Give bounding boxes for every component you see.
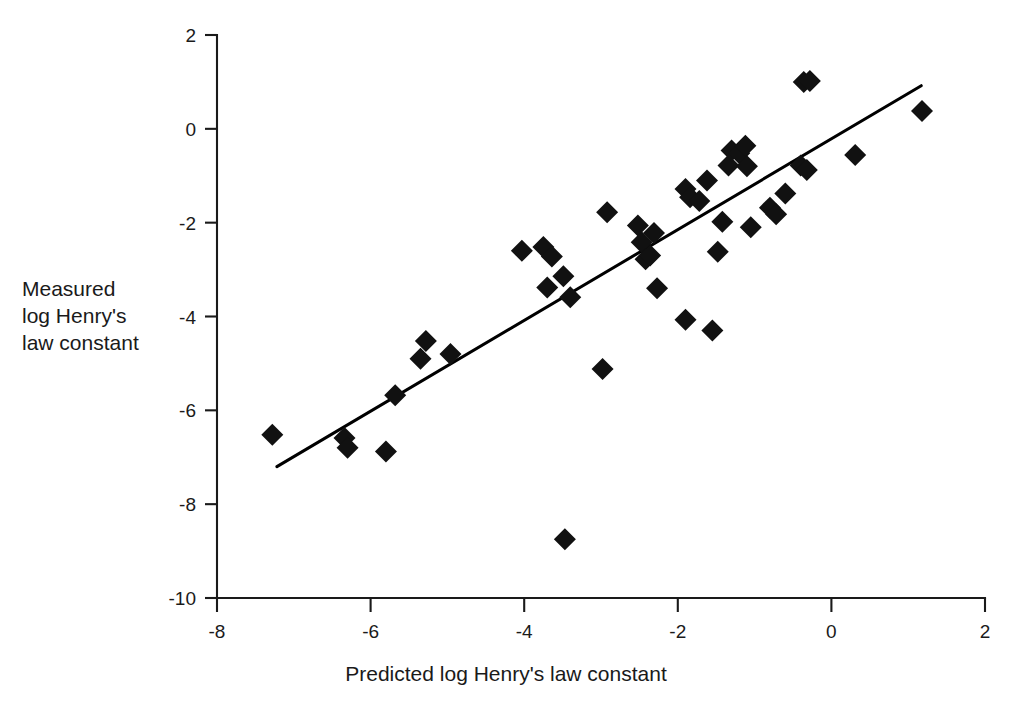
- regression-line: [277, 86, 921, 467]
- y-tick-label: -8: [179, 494, 196, 515]
- axes: [217, 35, 985, 598]
- y-tick-label: -10: [169, 588, 196, 609]
- scatter-point: [384, 384, 406, 406]
- plot-canvas: 20-2-4-6-8-10 -8-6-4-202: [0, 0, 1012, 717]
- x-tick-label: -4: [516, 621, 533, 642]
- scatter-point: [674, 309, 696, 331]
- y-tick-label: -2: [179, 213, 196, 234]
- y-tick-label: -6: [179, 400, 196, 421]
- scatter-point: [844, 144, 866, 166]
- scatter-point: [592, 358, 614, 380]
- scatter-point: [646, 277, 668, 299]
- x-tick-label: -8: [209, 621, 226, 642]
- scatter-point: [554, 528, 576, 550]
- y-tick-label: 2: [185, 25, 196, 46]
- scatter-point: [911, 100, 933, 122]
- x-tick-label: -6: [362, 621, 379, 642]
- scatter-point: [740, 216, 762, 238]
- scatter-point: [410, 348, 432, 370]
- scatter-point: [375, 441, 397, 463]
- x-tick-label: 0: [826, 621, 837, 642]
- x-tick-label: -2: [669, 621, 686, 642]
- scatter-point: [711, 211, 733, 233]
- scatter-point: [707, 241, 729, 263]
- scatter-point: [552, 265, 574, 287]
- y-axis-title: Measured log Henry's law constant: [22, 275, 192, 356]
- scatter-point: [439, 343, 461, 365]
- y-tick-label: 0: [185, 119, 196, 140]
- data-points: [261, 70, 933, 550]
- scatter-point: [596, 201, 618, 223]
- scatter-point: [511, 240, 533, 262]
- scatter-point: [701, 320, 723, 342]
- scatter-point: [774, 183, 796, 205]
- scatter-point: [696, 169, 718, 191]
- scatter-point: [536, 276, 558, 298]
- scatter-point: [261, 424, 283, 446]
- trend-line: [277, 86, 921, 467]
- scatter-plot-figure: 20-2-4-6-8-10 -8-6-4-202 Measured log He…: [0, 0, 1012, 717]
- x-axis-ticks: -8-6-4-202: [209, 598, 991, 642]
- scatter-point: [415, 330, 437, 352]
- x-tick-label: 2: [980, 621, 991, 642]
- x-axis-title: Predicted log Henry's law constant: [0, 660, 1012, 687]
